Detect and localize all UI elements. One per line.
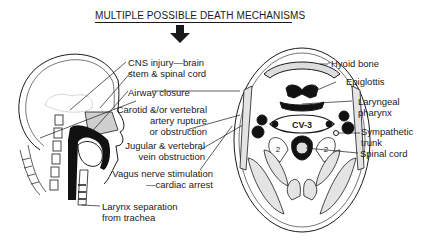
label-jugular-vertebral: Jugular & vertebral vein obstruction	[110, 140, 205, 162]
label-line: from trachea	[102, 212, 178, 223]
label-vagus-nerve: Vagus nerve stimulation —cardiac arrest	[100, 168, 213, 190]
anatomy-illustration: CV-3 2 2	[0, 0, 423, 241]
neck-muscles	[20, 145, 46, 195]
down-arrow-icon	[170, 25, 190, 43]
right-jugular	[342, 122, 354, 134]
right-vertebral-artery	[326, 121, 332, 127]
label-hyoid-bone: Hyoid bone	[331, 58, 379, 69]
label-epiglottis: Epiglottis	[346, 76, 385, 87]
label-line: Larynx separation	[102, 201, 178, 212]
label-line: Vagus nerve stimulation	[100, 168, 213, 179]
label-line: Laryngeal	[358, 96, 400, 107]
label-cns-injury: CNS injury—brain stem & spinal cord	[128, 57, 206, 79]
label-line: or obstruction	[115, 126, 207, 137]
label-airway-closure: Airway closure	[128, 87, 190, 98]
label-line: —cardiac arrest	[100, 179, 213, 190]
label-line: stem & spinal cord	[128, 68, 206, 79]
left-carotid	[257, 115, 267, 125]
cv3-label: CV-3	[292, 120, 312, 130]
label-sympathetic-trunk: Sympathetic trunk	[361, 126, 413, 148]
muscle-number-left: 2	[276, 145, 281, 154]
cervical-spine	[50, 115, 63, 190]
sympathetic-trunk	[334, 131, 339, 136]
hyoid-bone	[264, 62, 340, 78]
label-line: pharynx	[358, 107, 400, 118]
label-line: Sympathetic	[361, 126, 413, 137]
label-line: Carotid &/or vertebral	[115, 104, 207, 115]
label-spinal-cord: Spinal cord	[360, 148, 408, 159]
label-laryngeal-pharynx: Laryngeal pharynx	[358, 96, 400, 118]
label-line: CNS injury—brain	[128, 57, 206, 68]
label-carotid-vertebral: Carotid &/or vertebral artery rupture or…	[115, 104, 207, 137]
label-line: artery rupture	[115, 115, 207, 126]
label-line: vein obstruction	[110, 151, 205, 162]
label-line: trunk	[361, 137, 413, 148]
label-line: Jugular & vertebral	[110, 140, 205, 151]
left-jugular	[252, 126, 264, 138]
right-carotid	[339, 111, 349, 121]
tongue	[78, 141, 102, 166]
label-larynx-separation: Larynx separation from trachea	[102, 201, 178, 223]
left-vertebral-artery	[272, 121, 278, 127]
